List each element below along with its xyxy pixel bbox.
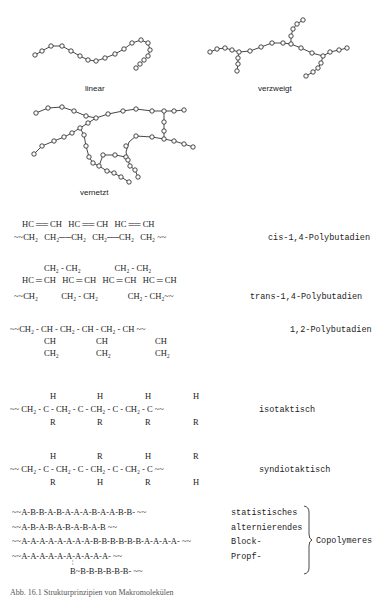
trans-polybutadiene-name: trans-1,4-Polybutadien [250, 292, 362, 302]
graft-branch: B~B-B-B-B-B-B- ~~ [70, 567, 143, 576]
cis-polybutadiene-name: cis-1,4-Polybutadien [268, 233, 370, 243]
label-branched: verzweigt [258, 84, 292, 93]
isotactic-name: isotaktisch [259, 405, 315, 415]
copolymer-type: Propf- [231, 552, 262, 562]
label-crosslinked: vernetzt [80, 188, 108, 197]
copolymer-chain: ~~A-A-A-A-A-A-A-A-B-B-B-B-B-B-A-A-A-A- ~… [12, 537, 191, 546]
copolymer-type: statistisches [231, 508, 297, 518]
polymer-chain-drawings [0, 0, 381, 210]
copolymer-type: Block- [231, 537, 262, 547]
copolymer-type: alternierendes [231, 523, 302, 533]
vinyl-polybutadiene-name: 1,2-Polybutadien [290, 325, 372, 335]
copolymer-chain: ~~A-B-B-A-B-A-A-A-B-A-A-B-B- ~~ [12, 508, 146, 517]
crosslinked-network [32, 105, 195, 184]
branched-chain [208, 18, 349, 78]
copolymer-chain: ~~A-A-A-A-A-A-A-A-A-A- ~~ [12, 552, 122, 561]
linear-chain [33, 38, 152, 70]
syndiotactic-name: syndiotaktisch [259, 465, 330, 475]
figure-caption: Abb. 16.1 Strukturprinzipien von Makromo… [10, 588, 174, 597]
copolymer-chain: ~~A-B-A-B-A-B-A-B-A-B ~~ [12, 523, 117, 532]
label-linear: linear [85, 84, 105, 93]
copolymer-group-label: Copolymeres [316, 536, 372, 546]
